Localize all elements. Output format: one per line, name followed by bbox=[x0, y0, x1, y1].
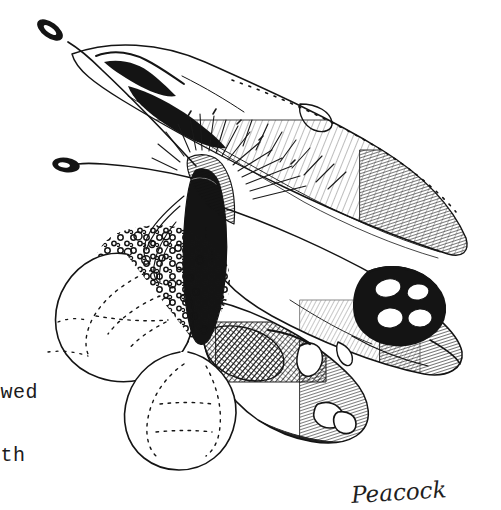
butterfly-illustration bbox=[0, 0, 501, 510]
typed-caption: owed ith bbox=[0, 340, 38, 508]
illustration-page: owed ith Peacock bbox=[0, 0, 501, 510]
eyespot bbox=[354, 267, 445, 345]
typed-caption-line-2: ith bbox=[0, 445, 38, 466]
typed-caption-line-1: owed bbox=[0, 382, 38, 403]
